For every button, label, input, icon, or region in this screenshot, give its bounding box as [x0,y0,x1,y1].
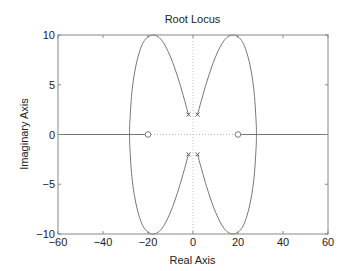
x-axis-label: Real Axis [18,254,349,266]
x-tick-label: −40 [94,236,113,248]
y-tick-label: −10 [36,228,55,240]
x-tick-label: 60 [322,236,334,248]
zero-marker-icon [235,132,241,138]
y-tick-label: −5 [42,178,55,190]
root-locus-chart: −60−40−200204060−10−50510 [0,0,349,271]
chart-title: Root Locus [18,13,349,25]
y-axis-label: Imaginary Axis [18,98,30,170]
zero-marker-icon [145,132,151,138]
x-tick-label: 40 [277,236,289,248]
y-tick-label: 5 [49,79,55,91]
x-tick-label: 20 [232,236,244,248]
x-tick-label: 0 [190,236,196,248]
y-tick-label: 10 [43,29,55,41]
x-tick-label: −20 [139,236,158,248]
y-tick-label: 0 [49,129,55,141]
